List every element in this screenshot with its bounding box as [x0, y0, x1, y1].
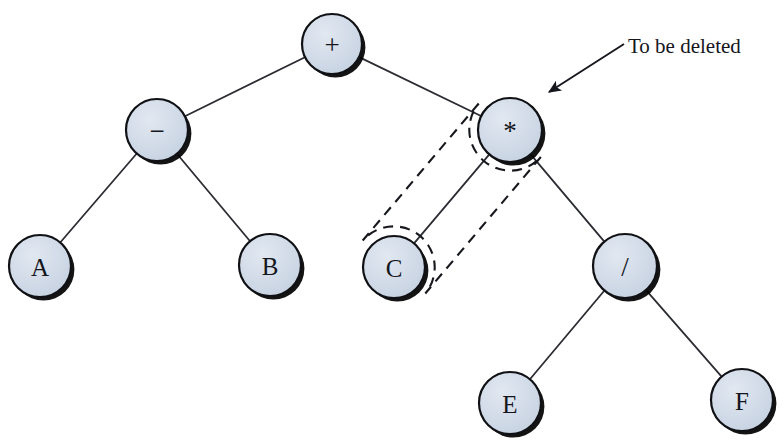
tree-node-label-mul: * — [503, 116, 517, 146]
tree-node-label-A: A — [31, 254, 49, 281]
tree-node-label-plus: + — [324, 30, 339, 60]
tree-node-B[interactable]: B — [239, 234, 304, 300]
tree-node-plus[interactable]: + — [302, 14, 365, 78]
tree-node-A[interactable]: A — [9, 235, 74, 301]
tree-edge-mul-C — [413, 154, 490, 244]
tree-edge-plus-minus — [184, 57, 306, 117]
tree-node-label-C: C — [386, 255, 403, 282]
tree-edge-mul-div — [530, 154, 605, 243]
tree-edge-div-E — [529, 290, 605, 380]
tree-node-E[interactable]: E — [479, 372, 544, 438]
tree-node-label-B: B — [262, 253, 279, 280]
tree-canvas: +−*ABC/EF To be deleted — [0, 0, 784, 443]
tree-node-F[interactable]: F — [711, 369, 776, 435]
tree-node-label-F: F — [735, 388, 749, 415]
annotation-layer: To be deleted — [549, 34, 741, 92]
tree-node-C[interactable]: C — [363, 236, 428, 302]
tree-node-label-minus: − — [149, 116, 164, 146]
to-be-deleted-label: To be deleted — [628, 34, 741, 58]
tree-node-label-E: E — [502, 391, 517, 418]
expression-tree-diagram: +−*ABC/EF To be deleted — [0, 0, 784, 443]
tree-edge-div-F — [645, 289, 722, 377]
tree-edge-plus-mul — [358, 57, 482, 117]
tree-edge-minus-B — [176, 153, 250, 242]
tree-edge-minus-A — [60, 153, 138, 244]
tree-node-label-div: / — [621, 252, 629, 282]
to-be-deleted-arrow — [549, 44, 624, 92]
